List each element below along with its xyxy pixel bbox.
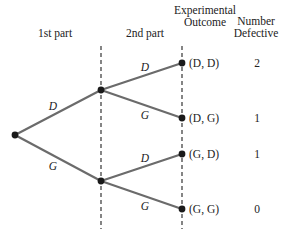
- leaf-node-DG: [179, 115, 186, 122]
- tree-diagram: 1st part 2nd part Experimental Outcome N…: [0, 0, 282, 240]
- leaf-node-GG: [179, 206, 186, 213]
- header-first-part: 1st part: [38, 27, 73, 40]
- header-defective-line2: Defective: [234, 27, 279, 39]
- header-outcome-line2: Outcome: [184, 16, 226, 28]
- node-D: [98, 87, 105, 94]
- node-G: [98, 178, 105, 185]
- label-DD: D: [140, 61, 150, 73]
- branch-first-D: [15, 90, 101, 135]
- defective-GD: 1: [254, 148, 260, 160]
- label-GG: G: [141, 200, 150, 212]
- outcome-DG: (D, G): [189, 112, 219, 125]
- root-node: [12, 132, 19, 139]
- defective-DG: 1: [254, 112, 260, 124]
- leaf-node-GD: [179, 151, 186, 158]
- outcome-GD: (G, D): [189, 148, 219, 161]
- tree-diagram-svg: 1st part 2nd part Experimental Outcome N…: [0, 0, 282, 240]
- defective-DD: 2: [254, 57, 260, 69]
- label-first-G: G: [49, 160, 58, 172]
- header-second-part: 2nd part: [126, 27, 165, 40]
- label-first-D: D: [48, 100, 58, 112]
- leaf-node-DD: [179, 60, 186, 67]
- label-GD: D: [140, 152, 150, 164]
- header-defective-line1: Number: [237, 15, 275, 27]
- defective-GG: 0: [254, 203, 260, 215]
- outcome-GG: (G, G): [189, 203, 219, 216]
- label-DG: G: [141, 109, 150, 121]
- branch-first-G: [15, 135, 101, 181]
- outcome-DD: (D, D): [189, 57, 219, 70]
